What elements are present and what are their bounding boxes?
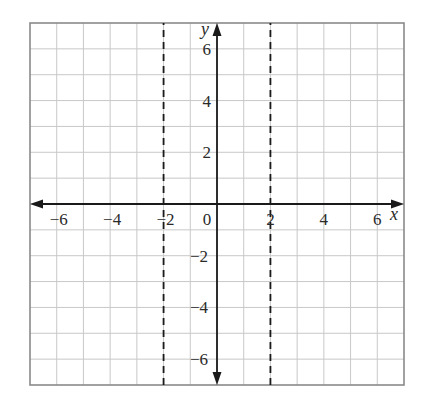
x-tick-label: −2 [157, 210, 175, 229]
x-tick-label: 6 [373, 210, 382, 229]
coordinate-plane: −6−4−20246642−2−4−6xy [0, 0, 427, 402]
y-tick-label: 6 [203, 40, 212, 59]
x-tick-label: −6 [50, 210, 68, 229]
x-tick-label: 4 [320, 210, 329, 229]
y-tick-label: 2 [203, 143, 212, 162]
y-axis-label: y [199, 19, 209, 39]
tick-labels: −6−4−20246642−2−4−6xy [50, 19, 398, 369]
x-tick-label: 2 [266, 210, 275, 229]
x-tick-label: 0 [203, 210, 212, 229]
y-tick-label: −2 [190, 247, 208, 266]
y-tick-label: −4 [190, 298, 209, 317]
y-axis-down-arrow-icon [213, 372, 222, 385]
y-tick-label: −6 [190, 350, 208, 369]
y-tick-label: 4 [203, 92, 212, 111]
axes [30, 23, 404, 385]
x-axis-left-arrow-icon [30, 200, 43, 209]
x-tick-label: −4 [103, 210, 122, 229]
x-axis-label: x [389, 204, 398, 224]
y-axis-up-arrow-icon [213, 23, 222, 36]
